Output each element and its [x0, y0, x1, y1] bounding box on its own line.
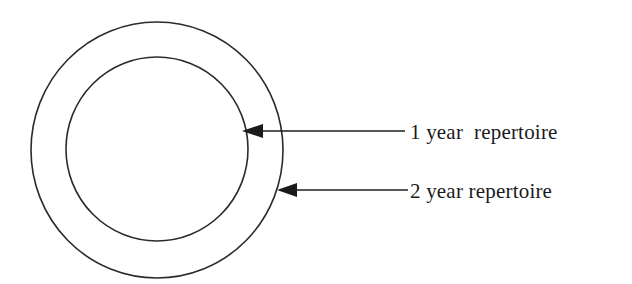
outer-circle-2-year [31, 22, 283, 278]
callout-2-year: 2 year repertoire [277, 179, 552, 203]
arrow-head-2-year [277, 183, 297, 197]
callout-label-2-year: 2 year repertoire [410, 179, 552, 203]
callout-1-year: 1 year repertoire [242, 120, 558, 144]
diagram-root: 1 year repertoire 2 year repertoire [0, 0, 632, 284]
inner-circle-1-year [66, 57, 248, 241]
callout-label-1-year: 1 year repertoire [410, 120, 558, 144]
repertoire-diagram: 1 year repertoire 2 year repertoire [0, 0, 632, 284]
